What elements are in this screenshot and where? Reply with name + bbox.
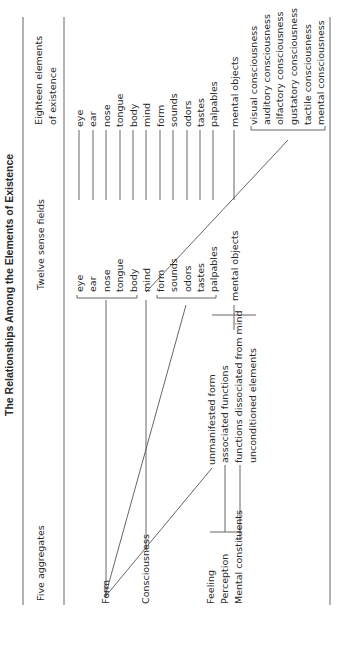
element-mind: mind — [141, 103, 152, 127]
aggregate-mental-constituents: Mental constituents — [233, 510, 244, 604]
element-nose: nose — [101, 104, 112, 127]
aggregate-form: Form — [100, 580, 111, 604]
element-ear: ear — [87, 111, 98, 127]
header-five-aggregates: Five aggregates — [35, 525, 46, 601]
consciousness-tactile: tactile consciousness — [302, 24, 313, 125]
header-eighteen-elements-line1: Eighteen elements — [33, 36, 44, 125]
subtype-associated-functions: associated functions — [219, 365, 230, 463]
sense-field-mind: mind — [141, 268, 152, 292]
consciousness-mental: mental consciousness — [315, 20, 326, 125]
element-eye: eye — [74, 110, 85, 127]
aggregate-perception: Perception — [219, 554, 230, 604]
sense-field-odors: odors — [182, 265, 193, 292]
consciousness-olfactory: olfactory consciousness — [274, 12, 285, 125]
element-body: body — [128, 104, 139, 128]
sense-field-palpables: palpables — [208, 246, 219, 292]
consciousness-visual: visual consciousness — [248, 26, 259, 125]
element-form: form — [155, 105, 166, 127]
sense-field-ear: ear — [87, 276, 98, 292]
sense-field-nose: nose — [101, 269, 112, 292]
sense-field-tongue: tongue — [114, 259, 125, 292]
aggregate-feeling: Feeling — [205, 570, 216, 604]
element-odors: odors — [182, 100, 193, 127]
subtype-unconditioned-elements: unconditioned elements — [247, 348, 258, 463]
sense-field-sounds: sounds — [168, 258, 179, 292]
element-tastes: tastes — [195, 98, 206, 127]
consciousness-gustatory: gustatory consciousness — [288, 8, 299, 125]
element-mental-objects: mental objects — [229, 56, 240, 127]
element-tongue: tongue — [114, 94, 125, 127]
subtype-unmanifested-form: unmanifested form — [206, 374, 217, 465]
sense-field-form: form — [155, 270, 166, 292]
sense-field-tastes: tastes — [195, 263, 206, 292]
aggregate-consciousness: Consciousness — [140, 534, 151, 604]
diagram-title: The Relationships Among the Elements of … — [4, 154, 15, 416]
element-sounds: sounds — [168, 93, 179, 127]
consciousness-auditory: auditory consciousness — [261, 14, 272, 125]
header-eighteen-elements-line2: of existence — [47, 67, 58, 125]
subtype-functions-dissociated: functions dissociated from mind — [233, 310, 244, 463]
sense-field-eye: eye — [74, 275, 85, 292]
element-palpables: palpables — [208, 81, 219, 127]
sense-field-body: body — [128, 269, 139, 293]
sense-field-mental-objects: mental objects — [229, 230, 240, 301]
header-twelve-sense-fields: Twelve sense fields — [35, 199, 46, 290]
